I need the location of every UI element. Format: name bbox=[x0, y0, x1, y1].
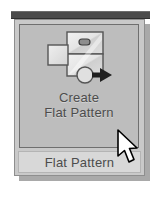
ribbon-divider-rule bbox=[11, 11, 150, 19]
create-flat-pattern-icon bbox=[41, 30, 117, 88]
command-label-line-2: Flat Pattern bbox=[20, 105, 138, 120]
create-flat-pattern-icon-svg bbox=[41, 30, 117, 88]
icon-sheet-left-flange bbox=[48, 45, 68, 65]
command-label-line-1: Create bbox=[20, 90, 138, 105]
ribbon-panel-flat-pattern: Create Flat Pattern Flat Pattern bbox=[14, 19, 145, 176]
panel-title-flat-pattern[interactable]: Flat Pattern bbox=[18, 151, 141, 173]
create-flat-pattern-label: Create Flat Pattern bbox=[20, 90, 138, 120]
screenshot-root: Create Flat Pattern Flat Pattern bbox=[0, 0, 160, 201]
icon-slot-feature bbox=[79, 39, 90, 45]
create-flat-pattern-button[interactable]: Create Flat Pattern bbox=[19, 24, 139, 148]
icon-bend-circle bbox=[77, 67, 93, 83]
